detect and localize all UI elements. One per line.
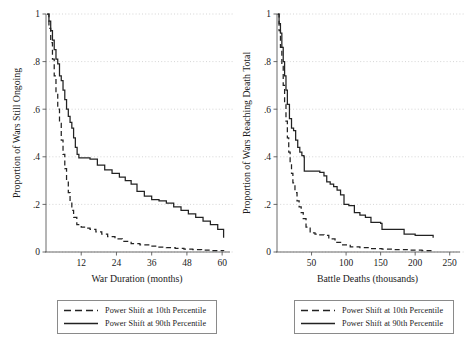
dashed-line-key [63, 305, 99, 316]
legend-war-duration: Power Shift at 10th Percentile Power Shi… [57, 300, 217, 334]
x-tick-label: 36 [147, 258, 157, 268]
y-tick-label: .4 [33, 152, 40, 162]
y-tick-label: .8 [33, 57, 40, 67]
dashed-line-key [300, 305, 336, 316]
y-tick-label: .6 [33, 105, 40, 115]
y-axis-title: Proportion of Wars Reaching Death Total [241, 52, 252, 215]
y-tick-label: .4 [264, 152, 271, 162]
y-axis-title: Proportion of Wars Still Ongoing [11, 68, 22, 198]
x-tick-label: 250 [443, 258, 458, 268]
x-tick-label: 150 [374, 258, 389, 268]
curve-10th-percentile [278, 14, 433, 251]
legend-item: Power Shift at 10th Percentile [63, 304, 210, 317]
legend-battle-deaths: Power Shift at 10th Percentile Power Shi… [294, 300, 454, 334]
x-axis-title: Battle Deaths (thousands) [317, 273, 418, 285]
panel-battle-deaths: 0.2.4.6.8150100150200250Battle Deaths (t… [236, 0, 471, 290]
x-tick-label: 50 [307, 258, 317, 268]
y-tick-label: 0 [35, 247, 40, 257]
y-tick-label: .8 [264, 57, 271, 67]
x-tick-label: 100 [339, 258, 354, 268]
solid-line-key [63, 318, 99, 329]
legend-item: Power Shift at 90th Percentile [300, 317, 447, 330]
x-tick-label: 200 [408, 258, 423, 268]
y-tick-label: .6 [264, 105, 271, 115]
x-axis-title: War Duration (months) [91, 273, 182, 285]
survival-curves-figure: 0.2.4.6.811224364860War Duration (months… [0, 0, 471, 341]
legend-label-10th: Power Shift at 10th Percentile [342, 305, 443, 316]
legend-item: Power Shift at 90th Percentile [63, 317, 210, 330]
legend-label-10th: Power Shift at 10th Percentile [105, 305, 206, 316]
y-tick-label: 0 [266, 247, 271, 257]
legend-item: Power Shift at 10th Percentile [300, 304, 447, 317]
x-tick-label: 60 [217, 258, 227, 268]
x-tick-label: 48 [182, 258, 192, 268]
x-tick-label: 24 [112, 258, 122, 268]
war-duration-chart: 0.2.4.6.811224364860War Duration (months… [0, 0, 235, 290]
solid-line-key [300, 318, 336, 329]
y-tick-label: .2 [264, 200, 271, 210]
legend-label-90th: Power Shift at 90th Percentile [342, 318, 443, 329]
x-tick-label: 12 [76, 258, 86, 268]
y-tick-label: 1 [266, 9, 271, 19]
legend-label-90th: Power Shift at 90th Percentile [105, 318, 206, 329]
battle-deaths-chart: 0.2.4.6.8150100150200250Battle Deaths (t… [236, 0, 471, 290]
curve-90th-percentile [278, 14, 433, 238]
panel-war-duration: 0.2.4.6.811224364860War Duration (months… [0, 0, 235, 290]
y-tick-label: 1 [35, 9, 40, 19]
y-tick-label: .2 [33, 200, 40, 210]
legend-row: Power Shift at 10th Percentile Power Shi… [0, 292, 471, 341]
